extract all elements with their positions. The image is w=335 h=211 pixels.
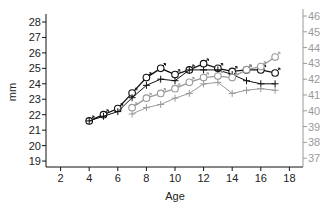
y-tick-label: 27 <box>29 31 41 43</box>
y2-tick-label: 40 <box>308 105 320 117</box>
male-symbol-marker <box>243 65 251 73</box>
y-tick-label: 25 <box>29 62 41 74</box>
male-symbol-marker <box>200 59 208 67</box>
x-tick-label: 18 <box>283 172 295 184</box>
male-symbol-marker <box>143 73 151 81</box>
y-tick-label: 20 <box>29 140 41 152</box>
male-symbol-marker <box>272 52 280 60</box>
y2-tick-label: 38 <box>308 136 320 148</box>
series-cross-right-axis- <box>129 79 279 118</box>
x-axis-title: Age <box>165 190 185 202</box>
male-symbol-marker <box>272 68 280 76</box>
y2-tick-label: 45 <box>308 26 320 38</box>
y-tick-label: 26 <box>29 47 41 59</box>
male-symbol-marker <box>129 103 137 111</box>
male-symbol-marker <box>186 78 194 86</box>
y2-tick-label: 37 <box>308 152 320 164</box>
x-tick-label: 8 <box>143 172 149 184</box>
y-tick-label: 24 <box>29 78 41 90</box>
y2-tick-label: 43 <box>308 57 320 69</box>
male-symbol-marker <box>172 84 180 92</box>
x-tick-label: 16 <box>255 172 267 184</box>
x-tick-label: 10 <box>169 172 181 184</box>
y-tick-label: 21 <box>29 124 41 136</box>
male-symbol-marker <box>172 70 180 78</box>
y-axis-title: mm <box>6 83 18 101</box>
male-symbol-marker <box>215 71 223 79</box>
x-tick-label: 4 <box>86 172 92 184</box>
y-tick-label: 23 <box>29 93 41 105</box>
y2-tick-label: 41 <box>308 89 320 101</box>
y-tick-label: 19 <box>29 155 41 167</box>
x-tick-label: 6 <box>115 172 121 184</box>
y2-tick-label: 42 <box>308 73 320 85</box>
male-symbol-marker <box>200 73 208 81</box>
dual-axis-line-chart: 1920212223242526272837383940414243444546… <box>0 0 335 211</box>
x-tick-label: 2 <box>58 172 64 184</box>
y2-tick-label: 39 <box>308 121 320 133</box>
y2-tick-label: 44 <box>308 42 320 54</box>
x-tick-label: 14 <box>226 172 238 184</box>
y-tick-label: 28 <box>29 16 41 28</box>
male-symbol-marker <box>157 89 165 97</box>
x-tick-label: 12 <box>197 172 209 184</box>
y2-tick-label: 46 <box>308 10 320 22</box>
data-series <box>86 52 280 124</box>
male-symbol-marker <box>143 93 151 101</box>
y-tick-label: 22 <box>29 109 41 121</box>
